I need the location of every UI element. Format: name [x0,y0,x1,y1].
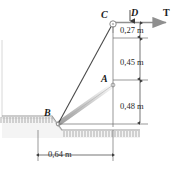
point-label-B: B [44,108,51,118]
diagram-canvas [0,0,180,170]
point-label-C: C [101,10,108,20]
force-label-T: T [163,8,170,18]
statics-diagram: C D T A B 0,27 m 0,45 m 0,48 m 0,64 m [0,0,180,170]
dimension-label-0-45: 0,45 m [120,58,144,67]
point-label-D: D [131,8,138,18]
dimension-label-0-64: 0,64 m [48,150,72,159]
dimension-label-0-48: 0,48 m [120,102,144,111]
embankment-ground [2,40,140,138]
point-label-A: A [101,74,108,84]
dimension-extension-lines [113,38,148,124]
dimension-label-0-27: 0,27 m [120,26,144,35]
member-BA [58,85,113,124]
